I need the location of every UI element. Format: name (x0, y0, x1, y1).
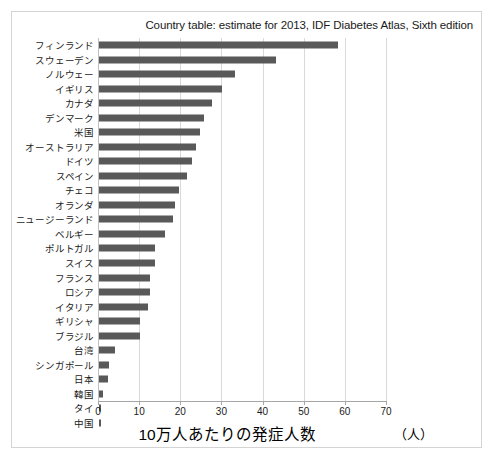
bar (99, 143, 196, 150)
category-label: カナダ (65, 96, 94, 110)
bar (99, 187, 179, 194)
bar-row: イタリア (12, 299, 483, 314)
category-label: スイス (65, 256, 94, 270)
x-tick-mark-60 (345, 401, 346, 405)
category-label: オランダ (55, 198, 94, 212)
bar-row: フィンランド (12, 38, 483, 53)
bar-rows: フィンランドスウェーデンノルウェーイギリスカナダデンマーク米国オーストラリアドイ… (12, 38, 483, 401)
bar-row: ドイツ (12, 154, 483, 169)
bar (99, 230, 165, 237)
bar (99, 114, 204, 121)
category-label: スウェーデン (35, 53, 94, 67)
x-tick-mark-20 (180, 401, 181, 405)
bar (99, 390, 103, 397)
bar (99, 100, 212, 107)
category-label: ドイツ (65, 154, 94, 168)
x-tick-label: 0 (95, 406, 101, 417)
x-axis-title: 10万人あたりの発症人数 (102, 422, 352, 444)
x-tick-label: 60 (339, 406, 350, 417)
x-tick-label: 10 (134, 406, 145, 417)
x-tick-mark-0 (98, 401, 99, 405)
bar (99, 259, 155, 266)
x-tick-label: 40 (257, 406, 268, 417)
category-label: 韓国 (74, 387, 94, 401)
x-tick-label: 70 (380, 406, 391, 417)
category-label: ベルギー (55, 227, 94, 241)
x-tick-mark-40 (263, 401, 264, 405)
bar (99, 172, 187, 179)
bar (99, 318, 140, 325)
bar (99, 158, 192, 165)
bar-row: チェコ (12, 183, 483, 198)
bar-row: 米国 (12, 125, 483, 140)
x-tick-label: 50 (298, 406, 309, 417)
bar (99, 376, 108, 383)
bar (99, 332, 140, 339)
bar (99, 71, 235, 78)
bar-row: ロシア (12, 285, 483, 300)
x-tick-mark-10 (139, 401, 140, 405)
unit-note: （人） (394, 424, 433, 443)
x-tick-mark-70 (386, 401, 387, 405)
bar (99, 274, 150, 281)
chart-figure: Country table: estimate for 2013, IDF Di… (11, 11, 482, 448)
bar (99, 361, 109, 368)
bar-row: ノルウェー (12, 67, 483, 82)
bar (99, 56, 276, 63)
bar-row: デンマーク (12, 111, 483, 126)
category-label: フィンランド (35, 38, 94, 52)
bar-row: スペイン (12, 169, 483, 184)
bar (99, 216, 173, 223)
bar (99, 129, 200, 136)
bar-row: 韓国 (12, 386, 483, 401)
category-label: 日本 (74, 372, 94, 386)
bar-row: フランス (12, 270, 483, 285)
x-tick-label: 20 (175, 406, 186, 417)
bar-row: 日本 (12, 372, 483, 387)
bar-row: イギリス (12, 82, 483, 97)
category-label: 中国 (74, 416, 94, 430)
category-label: ノルウェー (45, 67, 94, 81)
category-label: タイ (74, 401, 94, 415)
category-label: デンマーク (45, 111, 94, 125)
x-tick-mark-50 (304, 401, 305, 405)
chart-title: Country table: estimate for 2013, IDF Di… (145, 19, 473, 31)
category-label: イタリア (55, 300, 94, 314)
bar-row: スイス (12, 256, 483, 271)
bar-row: ブラジル (12, 328, 483, 343)
bar (99, 289, 150, 296)
bar (99, 42, 338, 49)
category-label: チェコ (65, 183, 94, 197)
bar (99, 201, 175, 208)
category-label: ブラジル (55, 329, 94, 343)
category-label: フランス (55, 271, 94, 285)
category-label: 台湾 (74, 343, 94, 357)
bar-row: オランダ (12, 198, 483, 213)
bar-row: 台湾 (12, 343, 483, 358)
bar-row: オーストラリア (12, 140, 483, 155)
category-label: シンガポール (35, 358, 94, 372)
bar (99, 85, 222, 92)
category-label: ポルトガル (45, 241, 94, 255)
bar-row: ベルギー (12, 227, 483, 242)
bar-row: シンガポール (12, 357, 483, 372)
bar-row: ポルトガル (12, 241, 483, 256)
bar-row: スウェーデン (12, 53, 483, 68)
category-label: ロシア (65, 285, 94, 299)
category-label: 米国 (74, 125, 94, 139)
category-label: スペイン (56, 169, 94, 183)
bar-row: ギリシャ (12, 314, 483, 329)
x-tick-label: 30 (216, 406, 227, 417)
bar (99, 245, 155, 252)
bar-row: ニュージーランド (12, 212, 483, 227)
category-label: イギリス (55, 82, 94, 96)
category-label: ニュージーランド (16, 212, 94, 226)
x-tick-mark-30 (221, 401, 222, 405)
category-label: オーストラリア (25, 140, 94, 154)
bar (99, 347, 115, 354)
bar-row: タイ (12, 401, 483, 416)
bar (99, 303, 148, 310)
bar-row: カナダ (12, 96, 483, 111)
category-label: ギリシャ (55, 314, 94, 328)
